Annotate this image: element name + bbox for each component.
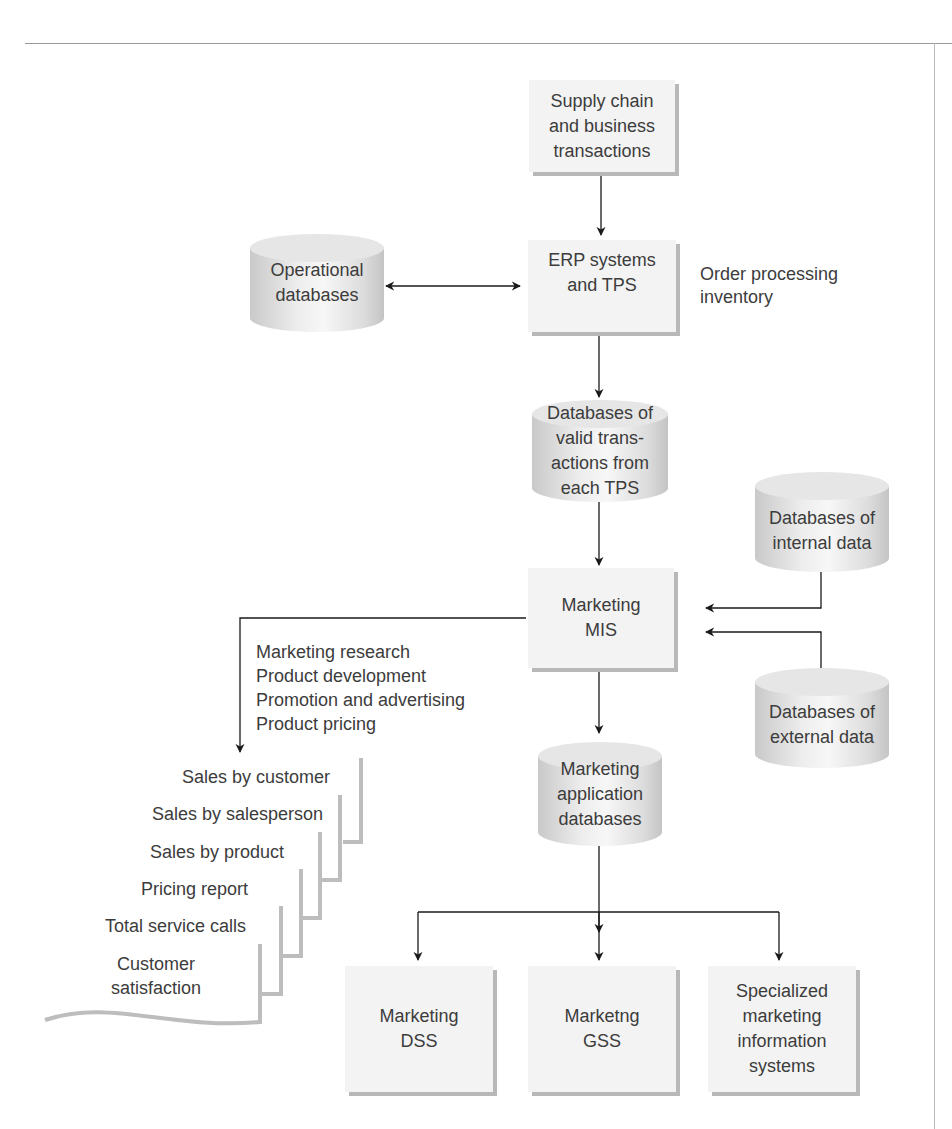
marketing-mis-label: Marketing MIS [561, 593, 640, 643]
marketing-dss-node: Marketing DSS [345, 966, 493, 1092]
report-item: Customer satisfaction [100, 952, 212, 1000]
report-item: Total service calls [80, 914, 246, 938]
marketing-dss-label: Marketing DSS [379, 1004, 458, 1054]
specialized-mis-label: Specialized marketing information system… [736, 979, 828, 1079]
report-item: Sales by product [110, 840, 284, 864]
operational-databases-cylinder: Operational databases [250, 234, 384, 332]
page-right-rule [934, 43, 935, 1129]
internal-data-db-cylinder: Databases of internal data [755, 472, 889, 572]
external-data-db-cylinder: Databases of external data [755, 668, 889, 768]
marketing-application-db-cylinder: Marketing application databases [538, 742, 662, 846]
internal-data-db-label: Databases of internal data [769, 488, 875, 556]
operational-databases-label: Operational databases [270, 258, 363, 308]
valid-transactions-db-cylinder: Databases of valid trans- actions from e… [532, 400, 668, 502]
specialized-mis-node: Specialized marketing information system… [708, 966, 856, 1092]
marketing-mis-node: Marketing MIS [528, 568, 674, 668]
external-data-db-label: Databases of external data [769, 686, 875, 750]
page-top-rule [25, 43, 952, 44]
report-item: Sales by customer [150, 765, 330, 789]
erp-tps-node: ERP systems and TPS [528, 240, 676, 332]
marketing-application-db-label: Marketing application databases [557, 757, 643, 832]
supply-chain-label: Supply chain and business transactions [549, 89, 655, 164]
erp-note: Order processing inventory [700, 263, 838, 309]
mis-functions-list: Marketing research Product development P… [256, 640, 465, 736]
erp-tps-label: ERP systems and TPS [548, 248, 656, 298]
valid-transactions-db-label: Databases of valid trans- actions from e… [547, 401, 653, 501]
supply-chain-node: Supply chain and business transactions [529, 80, 675, 172]
marketing-gss-label: Marketng GSS [564, 1004, 639, 1054]
marketing-gss-node: Marketng GSS [528, 966, 676, 1092]
report-item: Sales by salesperson [110, 802, 323, 826]
report-item: Pricing report [100, 877, 248, 901]
